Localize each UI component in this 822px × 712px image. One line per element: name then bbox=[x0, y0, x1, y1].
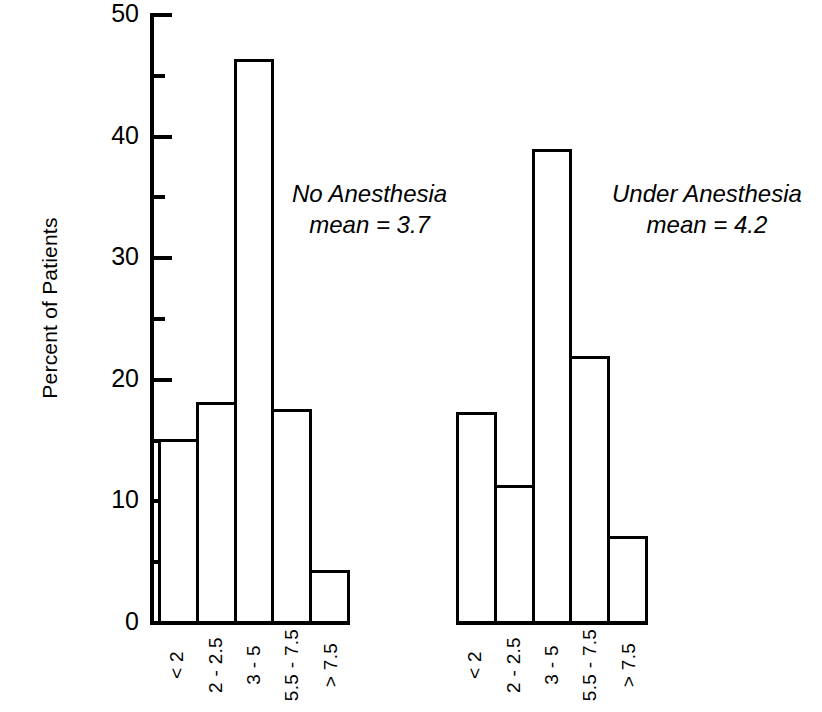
x-tick-label: > 7.5 bbox=[618, 643, 640, 687]
x-tick-cell: < 2 bbox=[158, 621, 196, 709]
y-tick-label-50: 50 bbox=[111, 0, 150, 26]
histogram-bar bbox=[196, 402, 237, 621]
x-tick-cell: < 2 bbox=[456, 621, 494, 709]
y-axis-title: Percent of Patients bbox=[38, 163, 62, 453]
bar-series-no-anesthesia bbox=[158, 13, 350, 621]
histogram-bar bbox=[158, 439, 199, 621]
histogram-bar bbox=[456, 412, 497, 621]
x-tick-cell: 2 - 2.5 bbox=[196, 621, 234, 709]
x-tick-labels-left: < 22 - 2.53 - 55.5 - 7.5> 7.5 bbox=[158, 621, 350, 709]
x-tick-cell: > 7.5 bbox=[312, 621, 350, 709]
annotation-no-anesthesia: No Anesthesia mean = 3.7 bbox=[292, 178, 447, 240]
histogram-bar bbox=[234, 59, 275, 621]
x-tick-cell: 3 - 5 bbox=[235, 621, 273, 709]
annotation-right-mean: mean = 4.2 bbox=[612, 209, 802, 240]
x-tick-label: 5.5 - 7.5 bbox=[579, 629, 601, 701]
y-tick-label-20: 20 bbox=[111, 365, 150, 391]
histogram-bar bbox=[271, 409, 312, 621]
y-tick-label-30: 30 bbox=[111, 243, 150, 269]
x-tick-label: 5.5 - 7.5 bbox=[281, 629, 303, 701]
x-tick-cell: 2 - 2.5 bbox=[494, 621, 532, 709]
histogram-bar bbox=[607, 536, 648, 621]
x-tick-label: < 2 bbox=[464, 651, 486, 679]
annotation-left-mean: mean = 3.7 bbox=[292, 209, 447, 240]
x-tick-label: 2 - 2.5 bbox=[503, 637, 525, 693]
x-tick-cell: > 7.5 bbox=[610, 621, 648, 709]
y-tick-label-10: 10 bbox=[111, 486, 150, 512]
x-tick-label: 3 - 5 bbox=[541, 645, 563, 685]
histogram-group-under-anesthesia: < 22 - 2.53 - 55.5 - 7.5> 7.5 bbox=[456, 13, 648, 621]
histogram-bar bbox=[532, 149, 573, 621]
x-tick-label: < 2 bbox=[166, 651, 188, 679]
x-tick-label: 2 - 2.5 bbox=[205, 637, 227, 693]
x-tick-label: > 7.5 bbox=[320, 643, 342, 687]
x-tick-label: 3 - 5 bbox=[243, 645, 265, 685]
histogram-bar bbox=[309, 570, 350, 621]
histogram-figure: Percent of Patients 50 40 30 20 10 0 < 2… bbox=[0, 0, 822, 712]
bar-series-under-anesthesia bbox=[456, 13, 648, 621]
x-tick-labels-right: < 22 - 2.53 - 55.5 - 7.5> 7.5 bbox=[456, 621, 648, 709]
histogram-group-no-anesthesia: < 22 - 2.53 - 55.5 - 7.5> 7.5 bbox=[158, 13, 350, 621]
annotation-left-title: No Anesthesia bbox=[292, 180, 447, 207]
y-tick-label-40: 40 bbox=[111, 122, 150, 148]
annotation-under-anesthesia: Under Anesthesia mean = 4.2 bbox=[612, 178, 802, 240]
histogram-bar bbox=[494, 485, 535, 621]
histogram-bar bbox=[569, 356, 610, 621]
y-tick-label-0: 0 bbox=[125, 608, 150, 634]
x-tick-cell: 3 - 5 bbox=[533, 621, 571, 709]
x-tick-cell: 5.5 - 7.5 bbox=[273, 621, 311, 709]
annotation-right-title: Under Anesthesia bbox=[612, 180, 802, 207]
x-tick-cell: 5.5 - 7.5 bbox=[571, 621, 609, 709]
